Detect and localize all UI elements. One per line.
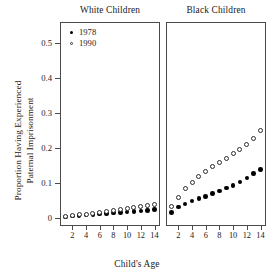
figure: Proportion Having Experienced Paternal I… (0, 0, 274, 278)
data-point-filled-circle (251, 171, 256, 176)
y-tick-mark (55, 148, 60, 149)
data-point-open-circle (190, 180, 195, 185)
y-tick-label: 0.4 (26, 73, 52, 83)
data-point-open-circle (63, 214, 68, 219)
x-tick-mark (113, 226, 114, 230)
legend: 1978 1990 (66, 27, 96, 49)
data-point-filled-circle (145, 208, 150, 213)
x-tick-label: 14 (147, 231, 163, 240)
data-point-open-circle (104, 209, 109, 214)
legend-label-1990: 1990 (77, 38, 96, 49)
data-point-open-circle (70, 213, 75, 218)
y-tick-label: 0.3 (26, 108, 52, 118)
plot-panel-white (60, 22, 160, 226)
x-tick-mark (72, 226, 73, 230)
panel-title-black: Black Children (166, 5, 266, 15)
data-point-filled-circle (197, 196, 202, 201)
data-point-filled-circle (169, 210, 174, 215)
legend-label-1978: 1978 (77, 27, 96, 38)
y-tick-mark (55, 218, 60, 219)
x-tick-mark (100, 226, 101, 230)
panel-title-white: White Children (60, 5, 160, 15)
data-point-filled-circle (210, 191, 215, 196)
data-point-filled-circle (203, 194, 208, 199)
x-tick-mark (233, 226, 234, 230)
x-tick-mark (261, 226, 262, 230)
data-point-open-circle (169, 204, 174, 209)
data-point-open-circle (224, 156, 229, 161)
data-point-open-circle (118, 207, 123, 212)
data-point-open-circle (217, 160, 222, 165)
x-tick-mark (247, 226, 248, 230)
data-point-filled-circle (224, 186, 229, 191)
data-point-open-circle (231, 151, 236, 156)
x-tick-mark (219, 226, 220, 230)
y-tick-label: 0 (26, 213, 52, 223)
y-tick-mark (55, 183, 60, 184)
data-point-open-circle (125, 206, 130, 211)
x-tick-mark (178, 226, 179, 230)
y-tick-mark (55, 43, 60, 44)
data-point-filled-circle (231, 183, 236, 188)
data-point-open-circle (111, 208, 116, 213)
data-point-filled-circle (217, 189, 222, 194)
x-tick-mark (86, 226, 87, 230)
data-point-open-circle (251, 136, 256, 141)
y-axis-title-line1: Proportion Having Experienced (13, 41, 25, 241)
filled-circle-icon (66, 31, 77, 34)
legend-item-1978: 1978 (66, 27, 96, 38)
data-point-open-circle (84, 212, 89, 217)
data-point-open-circle (152, 202, 157, 207)
data-point-open-circle (145, 203, 150, 208)
y-tick-label: 0.5 (26, 38, 52, 48)
y-tick-label: 0.1 (26, 178, 52, 188)
x-tick-mark (155, 226, 156, 230)
y-axis-title-line2: Paternal Imprisonment (24, 41, 36, 241)
legend-item-1990: 1990 (66, 38, 96, 49)
y-tick-mark (55, 113, 60, 114)
x-tick-mark (141, 226, 142, 230)
y-tick-mark (55, 78, 60, 79)
data-point-filled-circle (152, 207, 157, 212)
y-tick-label: 0.2 (26, 143, 52, 153)
x-tick-label: 14 (253, 231, 269, 240)
x-tick-mark (127, 226, 128, 230)
data-point-open-circle (77, 212, 82, 217)
x-axis-title: Child's Age (0, 259, 274, 269)
x-tick-mark (206, 226, 207, 230)
data-point-open-circle (176, 195, 181, 200)
x-tick-mark (192, 226, 193, 230)
open-circle-icon (66, 42, 77, 45)
plot-panel-black (166, 22, 266, 226)
data-point-filled-circle (176, 205, 181, 210)
data-point-filled-circle (258, 167, 263, 172)
